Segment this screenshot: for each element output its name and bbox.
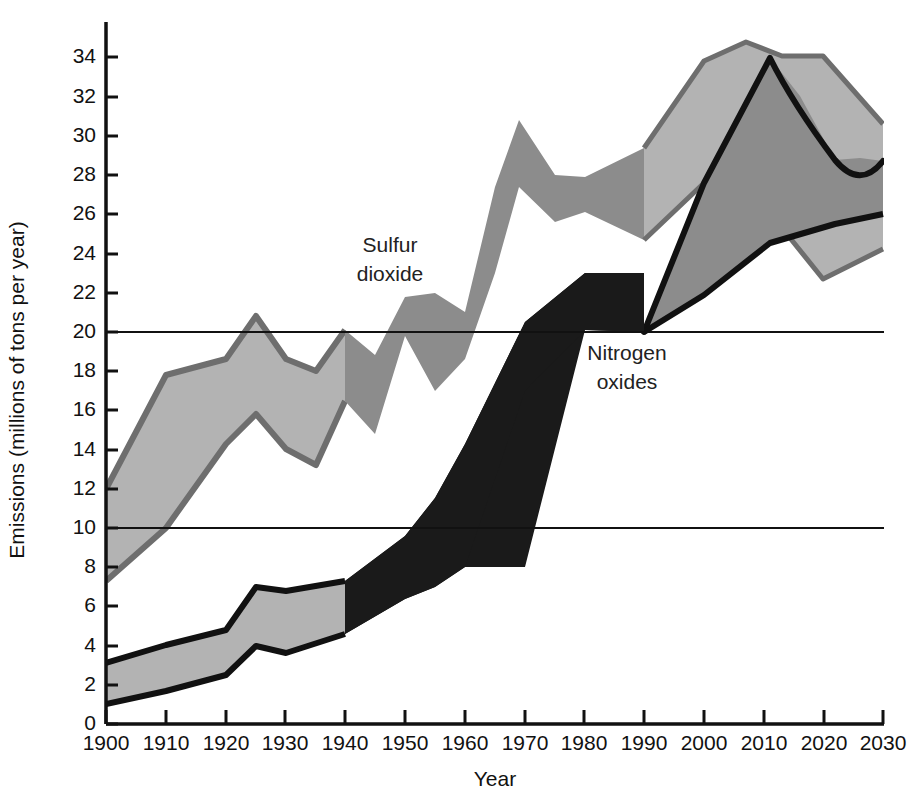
nitrogen-oxides-label-line1: Nitrogen: [587, 341, 666, 364]
y-tick-16: 16: [73, 397, 96, 420]
y-axis-title: Emissions (millions of tons per year): [5, 221, 28, 558]
y-tick-34: 34: [73, 44, 97, 67]
y-tick-32: 32: [73, 84, 96, 107]
x-tick-1940: 1940: [322, 731, 369, 754]
y-tick-18: 18: [73, 358, 96, 381]
y-tick-12: 12: [73, 476, 96, 499]
x-tick-1910: 1910: [143, 731, 190, 754]
emissions-area-chart: 0 2 4 6 8 10 12 14 16 18 20 22 24 26 28 …: [0, 0, 910, 796]
y-tick-26: 26: [73, 201, 96, 224]
x-tick-2000: 2000: [681, 731, 728, 754]
y-tick-0: 0: [84, 711, 96, 734]
x-tick-1950: 1950: [382, 731, 429, 754]
y-tick-10: 10: [73, 515, 96, 538]
x-tick-1970: 1970: [502, 731, 549, 754]
y-tick-22: 22: [73, 280, 96, 303]
sulfur-dioxide-label-line2: dioxide: [357, 262, 424, 285]
nitrogen-oxides-historic-band: [106, 581, 345, 704]
x-tick-1930: 1930: [262, 731, 309, 754]
x-tick-2020: 2020: [801, 731, 848, 754]
x-tick-1900: 1900: [83, 731, 130, 754]
sulfur-dioxide-historic-band: [106, 316, 345, 581]
x-axis-ticks: [106, 710, 883, 724]
y-axis-ticks: [106, 57, 118, 724]
y-tick-4: 4: [84, 633, 96, 656]
chart-canvas: 0 2 4 6 8 10 12 14 16 18 20 22 24 26 28 …: [0, 0, 910, 796]
x-tick-1980: 1980: [561, 731, 608, 754]
x-axis-tick-labels: 1900 1910 1920 1930 1940 1950 1960 1970 …: [83, 731, 907, 754]
x-tick-2030: 2030: [860, 731, 907, 754]
y-tick-20: 20: [73, 319, 96, 342]
y-tick-6: 6: [84, 593, 96, 616]
x-tick-1920: 1920: [203, 731, 250, 754]
x-axis-title: Year: [474, 767, 516, 790]
y-tick-14: 14: [73, 437, 97, 460]
y-tick-30: 30: [73, 123, 96, 146]
nitrogen-oxides-label-line2: oxides: [597, 370, 658, 393]
sulfur-dioxide-annotation: Sulfur dioxide: [357, 233, 424, 285]
y-tick-28: 28: [73, 162, 96, 185]
y-tick-2: 2: [84, 672, 96, 695]
x-tick-2010: 2010: [741, 731, 788, 754]
sulfur-dioxide-label-line1: Sulfur: [363, 233, 418, 256]
y-tick-8: 8: [84, 554, 96, 577]
nitrogen-oxides-annotation: Nitrogen oxides: [587, 341, 666, 393]
y-tick-24: 24: [73, 241, 97, 264]
x-tick-1990: 1990: [621, 731, 668, 754]
x-tick-1960: 1960: [442, 731, 489, 754]
y-axis-tick-labels: 0 2 4 6 8 10 12 14 16 18 20 22 24 26 28 …: [73, 44, 97, 734]
